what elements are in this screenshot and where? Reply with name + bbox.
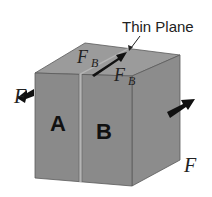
force-right-label: F [183, 154, 197, 176]
block-b-label: B [96, 119, 112, 144]
cube-right-face [132, 55, 180, 186]
force-left-label: F [13, 85, 27, 107]
plane-force-sub-1: B [91, 56, 99, 70]
plane-force-label-1: F [76, 47, 89, 67]
shear-diagram: Thin Plane A B F F F B F B [0, 0, 212, 197]
annotation-pointer [131, 36, 140, 48]
thin-plane-front [79, 74, 82, 182]
thin-plane-label: Thin Plane [122, 18, 194, 35]
block-a-label: A [50, 111, 66, 136]
plane-force-label-2: F [113, 65, 126, 85]
plane-force-sub-2: B [128, 74, 136, 88]
